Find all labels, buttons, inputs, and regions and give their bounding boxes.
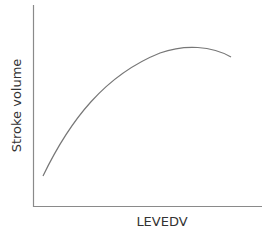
- y-axis-label: Stroke volume: [9, 56, 24, 156]
- x-axis-label: LEVEDV: [112, 214, 212, 229]
- chart-canvas: [0, 0, 264, 236]
- stroke-volume-curve: [43, 47, 231, 176]
